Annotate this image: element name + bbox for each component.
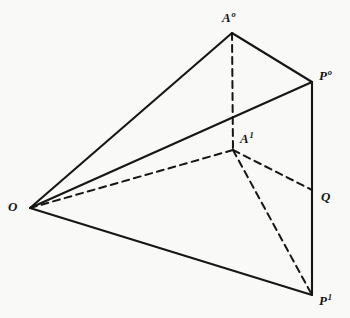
vertex-label-o-base: O — [8, 199, 18, 214]
figure-canvas — [0, 0, 350, 318]
vertex-label-a0-base: A — [222, 10, 231, 25]
vertex-label-p1-base: P — [319, 293, 327, 308]
vertex-label-q: Q — [321, 190, 331, 203]
vertex-label-p0-superscript: o — [328, 67, 332, 77]
vertex-label-a0-superscript: o — [231, 9, 235, 19]
vertex-label-p1: P1 — [319, 293, 332, 307]
vertex-label-a1-superscript: 1 — [249, 130, 253, 140]
vertex-label-p0: Po — [319, 68, 332, 82]
vertex-label-a1-base: A — [240, 131, 249, 146]
vertex-label-p1-superscript: 1 — [328, 292, 332, 302]
vertex-label-a0: Ao — [222, 10, 236, 24]
vertex-label-o: O — [8, 200, 18, 213]
vertex-label-a1: A1 — [240, 131, 254, 145]
geometry-figure: OAoPoA1QP1 — [0, 0, 350, 318]
vertex-label-p0-base: P — [319, 68, 327, 83]
vertex-label-q-base: Q — [321, 189, 331, 204]
